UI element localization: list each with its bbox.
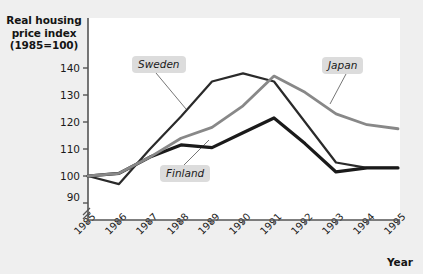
leader-line-finland xyxy=(184,140,209,165)
series-lines xyxy=(88,73,398,184)
leader-line-sweden xyxy=(156,73,186,109)
leader-line-japan xyxy=(330,74,346,104)
series-line-sweden xyxy=(88,73,398,184)
chart-svg xyxy=(0,0,423,274)
series-line-japan xyxy=(88,76,398,176)
axes-group xyxy=(83,18,400,225)
annotation-leader-lines xyxy=(156,73,346,165)
chart-figure: Real housing price index (1985=100) 140 … xyxy=(0,0,423,274)
